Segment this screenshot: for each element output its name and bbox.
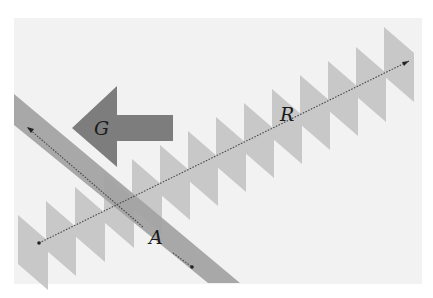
- arrowhead-r-start: [37, 241, 41, 245]
- diagram-canvas: G R A: [0, 0, 433, 298]
- label-g: G: [94, 117, 109, 139]
- label-a: A: [147, 226, 163, 248]
- arrowhead-a-end: [190, 265, 194, 269]
- label-r: R: [279, 103, 294, 125]
